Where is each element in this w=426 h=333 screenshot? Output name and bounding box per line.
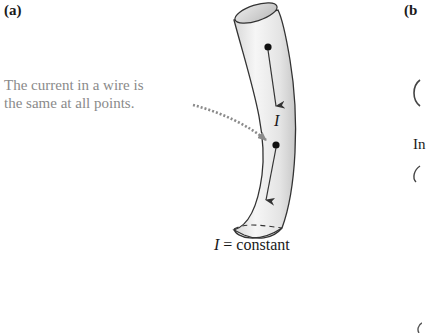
current-symbol: I [273, 112, 280, 129]
panel-b-partial-shape-1 [414, 80, 420, 106]
panel-b-partial-shape-3 [418, 323, 422, 333]
curved-wire [233, 0, 296, 238]
panel-b-partial-text: In [413, 136, 426, 153]
leader-dotted-arrow [193, 105, 266, 140]
point-upper [264, 43, 271, 50]
caption-current-constant: I = constant [214, 236, 290, 254]
point-lower [272, 141, 279, 148]
panel-b-partial-shape-2 [414, 166, 420, 182]
caption-text: = constant [219, 236, 289, 253]
